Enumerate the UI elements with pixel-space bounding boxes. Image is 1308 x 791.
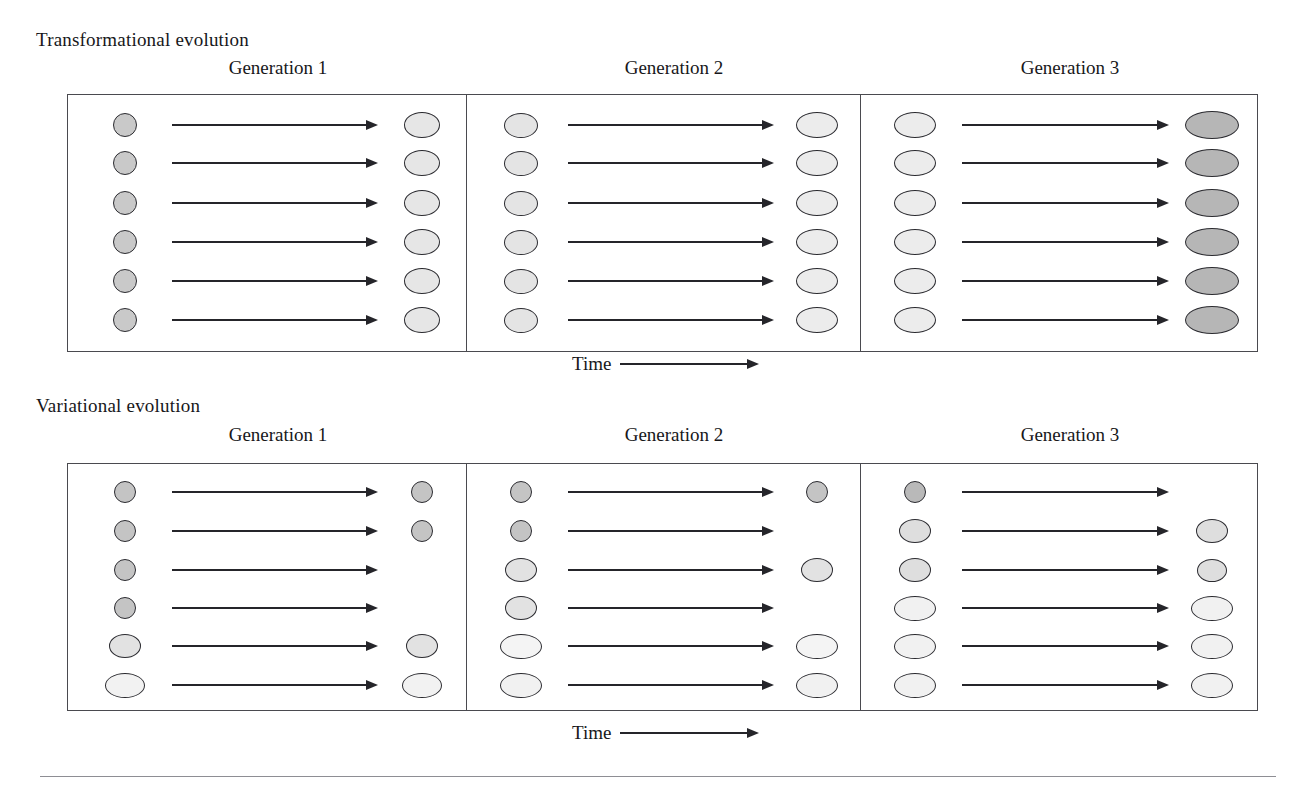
arrow-transformational-g1-r6-head-icon (366, 315, 378, 325)
arrow-variational-g2-r4-line (568, 607, 762, 609)
arrow-variational-g3-r5-line (962, 645, 1157, 647)
panel-divider-transformational-1 (466, 94, 467, 352)
arrow-variational-g2-r1-head-icon (762, 487, 774, 497)
arrow-transformational-g3-r2-line (962, 162, 1157, 164)
arrow-variational-g3-r4-head-icon (1157, 603, 1169, 613)
arrow-transformational-g3-r1-line (962, 124, 1157, 126)
arrow-transformational-g2-r1-line (568, 124, 762, 126)
arrow-variational-g2-r4-head-icon (762, 603, 774, 613)
arrow-transformational-g3-r3-line (962, 202, 1157, 204)
arrow-transformational-g2-r6-line (568, 319, 762, 321)
organism-transformational-g2-r6-start (504, 308, 538, 333)
arrow-transformational-g3-r2-head-icon (1157, 158, 1169, 168)
time-axis-variational: Time (572, 722, 759, 744)
organism-variational-g1-r5-start (109, 634, 141, 658)
arrow-variational-g2-r5-line (568, 645, 762, 647)
organism-transformational-g3-r1-start (894, 112, 936, 138)
organism-variational-g3-r4-start (894, 596, 936, 621)
organism-variational-g2-r3-start (505, 558, 537, 582)
arrow-transformational-g1-r1-head-icon (366, 120, 378, 130)
organism-variational-g2-r5-start (500, 634, 542, 659)
panel-divider-variational-1 (466, 463, 467, 711)
arrow-transformational-g2-r6-head-icon (762, 315, 774, 325)
organism-transformational-g2-r2-end (796, 150, 838, 176)
arrow-transformational-g2-r4-line (568, 241, 762, 243)
organism-transformational-g1-r5-end (404, 268, 440, 294)
generation-label-variational-1: Generation 1 (158, 424, 398, 446)
time-label: Time (572, 722, 611, 744)
arrow-variational-g1-r2-line (172, 530, 366, 532)
organism-transformational-g1-r6-end (404, 307, 440, 333)
organism-variational-g2-r5-end (796, 634, 838, 659)
arrow-variational-g1-r1-head-icon (366, 487, 378, 497)
organism-variational-g3-r3-start (899, 558, 931, 582)
organism-transformational-g2-r2-start (504, 151, 538, 176)
organism-variational-g2-r1-start (510, 481, 532, 503)
organism-variational-g3-r6-start (894, 673, 936, 698)
arrow-transformational-g2-r3-line (568, 202, 762, 204)
arrow-variational-g3-r2-head-icon (1157, 526, 1169, 536)
arrow-variational-g2-r3-head-icon (762, 565, 774, 575)
organism-variational-g1-r3-start (114, 559, 136, 581)
arrow-variational-g3-r1-line (962, 491, 1157, 493)
arrow-transformational-g1-r2-head-icon (366, 158, 378, 168)
arrow-transformational-g1-r6-line (172, 319, 366, 321)
arrow-transformational-g3-r4-line (962, 241, 1157, 243)
organism-variational-g2-r3-end (801, 558, 833, 582)
arrow-variational-g2-r3-line (568, 569, 762, 571)
organism-transformational-g3-r2-start (894, 150, 936, 176)
organism-variational-g1-r5-end (406, 634, 438, 658)
arrow-transformational-g2-r4-head-icon (762, 237, 774, 247)
organism-transformational-g2-r6-end (796, 307, 838, 333)
organism-variational-g3-r2-end (1196, 519, 1228, 543)
arrow-variational-g1-r5-head-icon (366, 641, 378, 651)
organism-transformational-g3-r6-end (1185, 306, 1239, 334)
organism-transformational-g1-r6-start (113, 308, 137, 332)
arrow-variational-g2-r6-head-icon (762, 680, 774, 690)
arrow-transformational-g2-r2-line (568, 162, 762, 164)
time-arrow-icon (620, 359, 759, 369)
organism-transformational-g1-r2-start (113, 151, 137, 175)
organism-transformational-g1-r3-end (404, 190, 440, 216)
organism-transformational-g3-r5-end (1185, 267, 1239, 295)
section-title-variational: Variational evolution (36, 395, 200, 417)
time-label: Time (572, 353, 611, 375)
arrow-transformational-g2-r3-head-icon (762, 198, 774, 208)
arrow-variational-g3-r3-head-icon (1157, 565, 1169, 575)
organism-transformational-g1-r2-end (404, 150, 440, 176)
organism-transformational-g1-r1-start (113, 113, 137, 137)
arrow-transformational-g2-r1-head-icon (762, 120, 774, 130)
organism-transformational-g3-r2-end (1185, 149, 1239, 177)
organism-variational-g2-r4-start (505, 596, 537, 620)
arrow-transformational-g3-r6-head-icon (1157, 315, 1169, 325)
organism-variational-g1-r1-end (411, 481, 433, 503)
organism-variational-g3-r6-end (1191, 673, 1233, 698)
organism-variational-g1-r2-start (114, 520, 136, 542)
arrow-variational-g1-r5-line (172, 645, 366, 647)
arrow-transformational-g1-r4-line (172, 241, 366, 243)
arrow-variational-g1-r1-line (172, 491, 366, 493)
organism-transformational-g3-r3-start (894, 190, 936, 216)
organism-variational-g3-r5-start (894, 634, 936, 659)
organism-transformational-g2-r1-start (504, 113, 538, 138)
arrow-variational-g1-r6-line (172, 684, 366, 686)
panel-variational (67, 463, 1258, 711)
organism-transformational-g2-r4-end (796, 229, 838, 255)
arrow-variational-g1-r6-head-icon (366, 680, 378, 690)
arrow-variational-g2-r2-head-icon (762, 526, 774, 536)
arrow-variational-g1-r4-line (172, 607, 366, 609)
generation-label-transformational-1: Generation 1 (158, 57, 398, 79)
organism-transformational-g2-r3-start (504, 191, 538, 216)
organism-transformational-g2-r5-start (504, 269, 538, 294)
organism-variational-g2-r1-end (806, 481, 828, 503)
organism-transformational-g3-r1-end (1185, 111, 1239, 139)
organism-transformational-g1-r5-start (113, 269, 137, 293)
organism-variational-g2-r6-start (500, 673, 542, 698)
organism-variational-g1-r6-start (105, 673, 145, 698)
time-axis-transformational: Time (572, 353, 759, 375)
arrow-transformational-g3-r5-line (962, 280, 1157, 282)
organism-variational-g1-r6-end (402, 673, 442, 698)
arrow-transformational-g1-r4-head-icon (366, 237, 378, 247)
arrow-transformational-g1-r3-head-icon (366, 198, 378, 208)
arrow-transformational-g2-r5-line (568, 280, 762, 282)
